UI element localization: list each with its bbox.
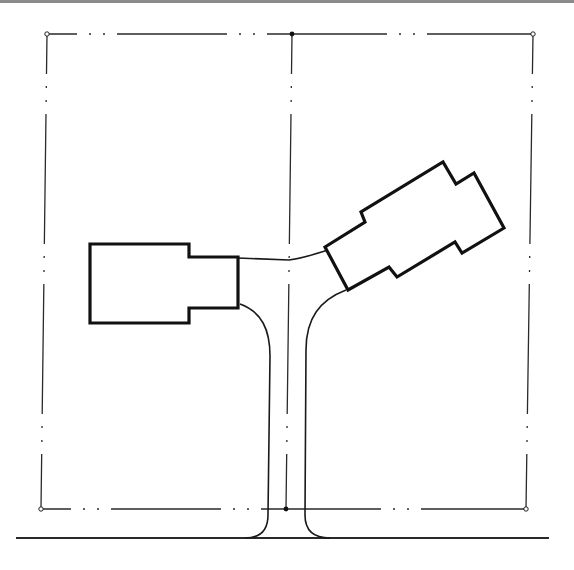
site-plan-diagram xyxy=(0,0,574,570)
driveway-right-edge xyxy=(305,290,346,538)
corner-marker-open xyxy=(531,32,535,36)
corner-marker-filled xyxy=(290,32,295,37)
corner-marker-open xyxy=(524,507,528,511)
left-building xyxy=(90,244,238,323)
center-boundary xyxy=(286,34,292,509)
left-boundary xyxy=(41,34,47,509)
corner-marker-open xyxy=(39,507,43,511)
driveway-left-edge xyxy=(240,304,270,538)
right-building xyxy=(325,162,504,290)
corner-marker-open xyxy=(45,32,49,36)
driveway-top-edge xyxy=(238,250,328,260)
right-boundary xyxy=(526,34,533,509)
corner-marker-filled xyxy=(284,507,289,512)
driveway xyxy=(238,250,346,538)
